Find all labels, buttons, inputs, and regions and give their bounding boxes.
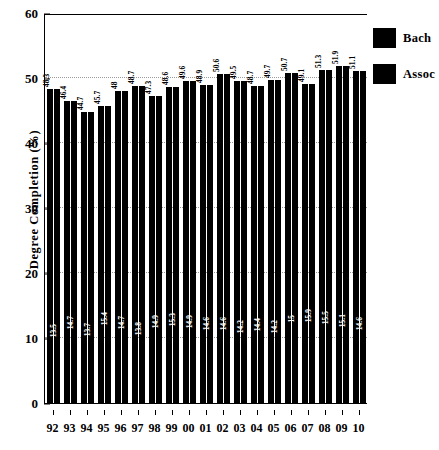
bar-assoc: 14.6 — [360, 71, 366, 403]
y-tick-mark — [44, 14, 50, 15]
x-tick-mark — [274, 410, 275, 415]
bar-series-container: 48.313.546.414.744.713.745.715.44814.748… — [45, 14, 367, 403]
bar-group: 48.615.3 — [166, 87, 179, 403]
bar-value-label: 15.1 — [339, 314, 346, 327]
x-tick-mark — [189, 410, 190, 415]
x-tick-mark — [325, 410, 326, 415]
bar-value-label: 48.7 — [247, 71, 254, 84]
bar-bach: 47.3 — [149, 96, 155, 403]
x-tick-mark — [257, 410, 258, 415]
x-tick-label: 03 — [234, 421, 246, 436]
bar-value-label: 15.3 — [169, 313, 176, 326]
x-tick-mark — [172, 410, 173, 415]
bar-assoc: 15.4 — [105, 106, 111, 403]
x-tick-mark — [104, 410, 105, 415]
bar-value-label: 13.7 — [84, 323, 91, 336]
bar-group: 44.713.7 — [81, 112, 94, 403]
bar-value-label: 50.6 — [213, 59, 220, 72]
bar-group: 48.313.5 — [47, 89, 60, 403]
bar-group: 48.914.6 — [200, 85, 213, 403]
bar-bach: 49.6 — [183, 81, 189, 403]
bar-value-label: 48 — [111, 81, 118, 89]
x-tick-mark — [359, 410, 360, 415]
x-tick-mark — [53, 410, 54, 415]
bar-value-label: 51.1 — [349, 56, 356, 69]
x-tick-label: 94 — [81, 421, 93, 436]
bar-assoc: 13.8 — [139, 86, 145, 403]
y-tick-label: 20 — [0, 266, 38, 282]
bar-value-label: 14.6 — [356, 317, 363, 330]
x-tick-label: 04 — [251, 421, 263, 436]
bar-assoc: 15.9 — [309, 84, 315, 403]
x-tick-label: 92 — [47, 421, 59, 436]
plot-area: 48.313.546.414.744.713.745.715.44814.748… — [44, 14, 367, 404]
chart-legend: BachAssoc — [373, 28, 439, 100]
bar-value-label: 14.6 — [220, 317, 227, 330]
x-tick-label: 02 — [217, 421, 229, 436]
x-tick-mark — [308, 410, 309, 415]
bar-value-label: 14.9 — [186, 315, 193, 328]
x-tick-label: 97 — [132, 421, 144, 436]
y-axis-title: Degree Completion (%) — [27, 80, 42, 320]
x-tick-mark — [342, 410, 343, 415]
bar-group: 51.315.5 — [319, 70, 332, 403]
bar-group: 48.713.8 — [132, 86, 145, 403]
legend-item-bach[interactable]: Bach — [373, 28, 439, 48]
x-tick-label: 08 — [319, 421, 331, 436]
bar-assoc: 14.6 — [207, 85, 213, 403]
y-tick-mark — [44, 209, 50, 210]
bar-value-label: 14.6 — [203, 317, 210, 330]
bar-assoc: 14.6 — [224, 74, 230, 403]
bar-value-label: 44.7 — [77, 97, 84, 110]
legend-item-assoc[interactable]: Assoc — [373, 64, 439, 84]
bar-bach: 51.9 — [336, 66, 342, 403]
bar-assoc: 14.7 — [71, 101, 77, 403]
x-tick-mark — [206, 410, 207, 415]
bar-value-label: 14.2 — [237, 320, 244, 333]
x-tick-label: 10 — [353, 421, 365, 436]
bar-assoc: 13.5 — [54, 89, 60, 403]
bar-bach: 48.7 — [251, 86, 257, 403]
y-tick-label: 10 — [0, 331, 38, 347]
y-tick-mark — [44, 79, 50, 80]
bar-group: 48.714.4 — [251, 86, 264, 403]
bar-value-label: 49.1 — [298, 69, 305, 82]
bar-value-label: 47.3 — [145, 80, 152, 93]
bar-assoc: 15.1 — [343, 66, 349, 403]
x-tick-mark — [87, 410, 88, 415]
bar-value-label: 49.6 — [179, 65, 186, 78]
bar-group: 49.614.9 — [183, 81, 196, 403]
bar-value-label: 14.4 — [254, 318, 261, 331]
x-tick-label: 98 — [149, 421, 161, 436]
x-tick-label: 95 — [98, 421, 110, 436]
bar-bach: 50.6 — [217, 74, 223, 403]
bar-bach: 48.3 — [47, 89, 53, 403]
bar-value-label: 48.7 — [128, 71, 135, 84]
bar-assoc: 14.2 — [275, 80, 281, 403]
y-tick-label: 30 — [0, 201, 38, 217]
bar-assoc: 15.5 — [326, 70, 332, 403]
bar-value-label: 14.7 — [67, 316, 74, 329]
bar-group: 46.414.7 — [64, 101, 77, 403]
bar-bach: 50.7 — [285, 73, 291, 403]
x-tick-label: 01 — [200, 421, 212, 436]
bar-value-label: 49.7 — [264, 65, 271, 78]
bar-assoc: 14.2 — [241, 81, 247, 403]
bar-value-label: 14.2 — [271, 320, 278, 333]
bar-group: 49.514.2 — [234, 81, 247, 403]
bar-value-label: 13.8 — [135, 322, 142, 335]
x-tick-label: 06 — [285, 421, 297, 436]
x-tick-label: 00 — [183, 421, 195, 436]
x-tick-mark — [223, 410, 224, 415]
bar-group: 45.715.4 — [98, 106, 111, 403]
bar-value-label: 48.6 — [162, 72, 169, 85]
x-tick-mark — [155, 410, 156, 415]
x-axis-labels: 92939495969798990001020304050607080910 — [44, 410, 367, 430]
bar-assoc: 15.3 — [173, 87, 179, 403]
bar-group: 49.115.9 — [302, 84, 315, 403]
bar-group: 50.715 — [285, 73, 298, 403]
x-tick-mark — [291, 410, 292, 415]
bar-value-label: 13.5 — [50, 324, 57, 337]
legend-label: Assoc — [403, 67, 435, 82]
bar-bach: 49.7 — [268, 80, 274, 403]
